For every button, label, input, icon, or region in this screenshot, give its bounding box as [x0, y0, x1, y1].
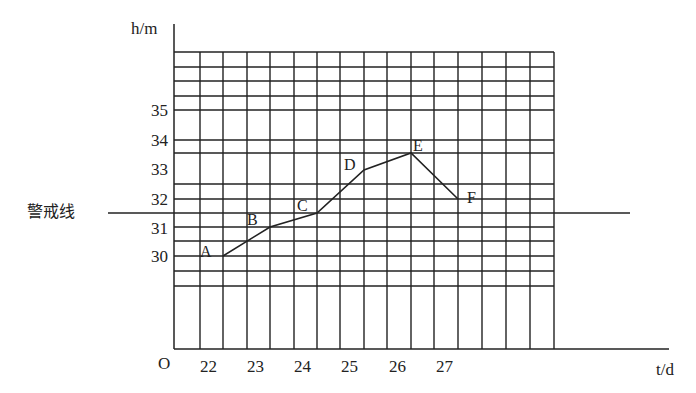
y-tick-32: 32 — [128, 191, 168, 208]
warning-line-label: 警戒线 — [27, 204, 75, 220]
y-tick-34: 34 — [128, 132, 168, 149]
point-label-e: E — [413, 138, 423, 154]
x-tick-23: 23 — [247, 358, 264, 375]
grid — [174, 52, 554, 349]
x-tick-27: 27 — [436, 358, 453, 375]
y-tick-33: 33 — [128, 161, 168, 178]
chart-canvas — [0, 0, 696, 393]
point-label-d: D — [344, 157, 356, 173]
y-axis-label: h/m — [131, 20, 157, 37]
x-tick-25: 25 — [341, 358, 358, 375]
point-label-b: B — [247, 212, 258, 228]
y-tick-35: 35 — [128, 102, 168, 119]
x-tick-24: 24 — [294, 358, 311, 375]
x-axis-label: t/d — [656, 361, 674, 378]
point-label-f: F — [467, 190, 476, 206]
point-label-a: A — [200, 244, 212, 260]
point-label-c: C — [297, 198, 308, 214]
x-tick-26: 26 — [389, 358, 406, 375]
origin-label: O — [158, 355, 170, 372]
x-tick-22: 22 — [200, 358, 217, 375]
y-tick-30: 30 — [128, 248, 168, 265]
y-tick-31: 31 — [128, 220, 168, 237]
